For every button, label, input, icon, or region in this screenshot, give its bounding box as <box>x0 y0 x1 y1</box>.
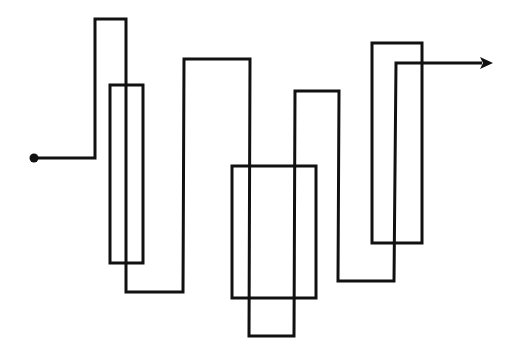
rect-center <box>232 166 316 298</box>
flow-path-line <box>34 19 482 336</box>
diagram-canvas <box>0 0 522 359</box>
overlay-rectangles <box>110 43 422 298</box>
start-point-dot-icon <box>30 154 39 163</box>
maze-path-diagram <box>0 0 522 359</box>
